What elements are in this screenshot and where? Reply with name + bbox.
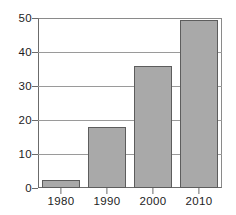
x-tick-mark-1990 (106, 188, 107, 194)
x-tick-label-1990: 1990 (94, 195, 121, 207)
y-tick-label-40: 40 (19, 46, 32, 58)
x-tick-label-1980: 1980 (48, 195, 75, 207)
bar-1990 (88, 127, 126, 188)
x-tick-mark-2000 (152, 188, 153, 194)
x-tick-mark-1980 (60, 188, 61, 194)
y-axis-tick-labels: 0 10 20 30 40 50 (0, 0, 36, 215)
x-axis-tick-marks (38, 188, 222, 195)
y-tick-label-20: 20 (19, 114, 32, 126)
y-tick-mark-40 (32, 52, 38, 53)
y-tick-mark-30 (32, 86, 38, 87)
bar-2000 (134, 66, 172, 188)
y-tick-label-0: 0 (25, 182, 32, 194)
x-tick-mark-2010 (198, 188, 199, 194)
y-tick-mark-10 (32, 154, 38, 155)
y-tick-mark-50 (32, 18, 38, 19)
bar-2010 (180, 20, 218, 188)
y-tick-label-30: 30 (19, 80, 32, 92)
y-tick-label-10: 10 (19, 148, 32, 160)
x-tick-label-2000: 2000 (140, 195, 167, 207)
y-tick-label-50: 50 (19, 12, 32, 24)
x-axis-tick-labels: 1980 1990 2000 2010 (38, 195, 222, 213)
plot-area (38, 18, 222, 188)
bar-chart: 0 10 20 30 40 50 1980 1990 (0, 0, 236, 215)
y-tick-mark-20 (32, 120, 38, 121)
x-tick-label-2010: 2010 (186, 195, 213, 207)
bar-1980 (42, 180, 80, 189)
